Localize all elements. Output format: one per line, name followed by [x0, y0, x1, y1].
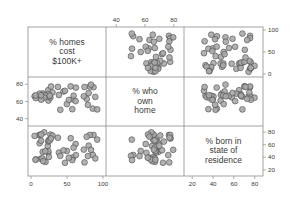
data-point [165, 44, 171, 50]
data-point [213, 53, 219, 59]
data-point [145, 48, 151, 54]
data-point [38, 138, 44, 144]
data-point [46, 154, 52, 160]
data-point [156, 143, 162, 149]
data-point [128, 53, 134, 59]
data-point [167, 135, 173, 141]
data-point [92, 94, 98, 100]
data-point [57, 107, 63, 113]
variable-label-bornInState: % born instate ofresidence [184, 137, 263, 166]
data-point [68, 83, 74, 89]
bottom-tick-label: 20 [189, 180, 196, 187]
data-point [62, 88, 68, 94]
data-point [166, 160, 172, 166]
data-point [157, 133, 163, 139]
data-point [138, 49, 144, 55]
data-point [71, 93, 77, 99]
data-point [40, 158, 46, 164]
data-point [222, 51, 228, 57]
data-point [137, 153, 143, 159]
data-point [226, 45, 232, 51]
scatter-panel-r1-c2 [201, 82, 257, 113]
data-point [246, 90, 252, 96]
data-point [248, 65, 254, 71]
data-point [210, 48, 216, 54]
data-point [88, 147, 94, 153]
data-point [33, 92, 39, 98]
data-point [161, 139, 167, 145]
right-tick-label: 20 [268, 166, 275, 173]
data-point [48, 84, 54, 90]
data-point [212, 36, 218, 42]
data-point [42, 148, 48, 154]
data-point [240, 31, 246, 37]
variable-label-ownHome: % whoownhome [106, 87, 184, 116]
data-point [71, 145, 77, 151]
data-point [94, 107, 100, 113]
right-tick-label: 100 [268, 26, 279, 33]
data-point [238, 65, 244, 71]
data-point [160, 50, 166, 56]
data-point [85, 102, 91, 108]
data-point [214, 85, 220, 91]
data-point [230, 90, 236, 96]
data-point [38, 132, 44, 138]
scatter-panel-r2-c0 [32, 129, 100, 165]
data-point [82, 160, 88, 166]
data-point [84, 134, 90, 140]
data-point [229, 61, 235, 67]
data-point [151, 39, 157, 45]
right-tick-label: 50 [268, 48, 275, 55]
data-point [153, 65, 159, 71]
top-tick-label: 80 [170, 16, 177, 23]
left-tick-label: 60 [16, 98, 23, 105]
data-point [167, 55, 173, 61]
data-point [145, 65, 151, 71]
right-tick-label: 60 [268, 141, 275, 148]
bottom-tick-label: 100 [98, 180, 109, 187]
data-point [73, 152, 79, 158]
data-point [138, 148, 144, 154]
data-point [243, 55, 249, 61]
right-tick-label: 40 [268, 153, 275, 160]
data-point [62, 160, 68, 166]
variable-label-line: home [106, 106, 184, 116]
data-point [232, 44, 238, 50]
data-point [165, 152, 171, 158]
data-point [230, 36, 236, 42]
data-point [243, 84, 249, 90]
data-point [147, 134, 153, 140]
variable-label-homes100k: % homescost$100K+ [28, 38, 106, 67]
data-point [160, 160, 166, 166]
data-point [153, 157, 159, 163]
scatter-panel-r0-c2 [201, 31, 257, 75]
data-point [240, 107, 246, 113]
top-tick-label: 60 [142, 16, 149, 23]
data-point [85, 153, 91, 159]
data-point [129, 137, 135, 143]
data-point [150, 32, 156, 38]
data-point [92, 156, 98, 162]
data-point [170, 147, 176, 153]
data-point [38, 92, 44, 98]
right-tick-label: 0 [268, 70, 272, 77]
data-point [129, 46, 135, 52]
data-point [33, 157, 39, 163]
data-point [210, 97, 216, 103]
data-point [223, 82, 229, 88]
data-point [73, 85, 79, 91]
data-point [48, 136, 54, 142]
data-point [151, 147, 157, 153]
data-point [170, 34, 176, 40]
data-point [232, 98, 238, 104]
data-point [66, 97, 72, 103]
data-point [152, 138, 158, 144]
data-point [242, 47, 248, 53]
data-point [88, 82, 94, 88]
data-point [206, 106, 212, 112]
data-point [214, 44, 220, 50]
data-point [221, 101, 227, 107]
bottom-tick-label: 60 [230, 180, 237, 187]
scatter-panel-r0-c1 [128, 31, 176, 75]
variable-label-line: residence [184, 156, 263, 166]
